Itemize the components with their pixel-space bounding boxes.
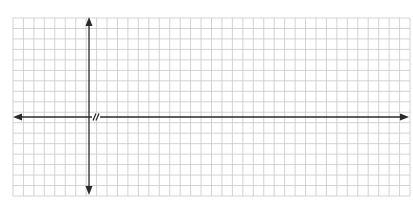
x-axis — [13, 114, 409, 121]
graph-paper-canvas — [0, 0, 413, 214]
y-axis-down-arrow-icon — [86, 186, 93, 195]
axis-break-mark — [92, 113, 100, 121]
y-axis — [86, 17, 93, 195]
grid-lines — [13, 18, 410, 196]
x-axis-left-arrow-icon — [13, 114, 22, 121]
x-axis-right-arrow-icon — [400, 114, 409, 121]
blank-coordinate-grid — [0, 0, 413, 214]
